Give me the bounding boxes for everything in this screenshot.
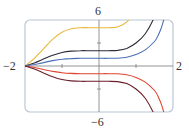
y-max-label: 6 (95, 5, 101, 17)
x-min-label: −2 (3, 60, 16, 72)
y-min-label: −6 (91, 116, 104, 128)
x-max-label: 2 (176, 60, 182, 72)
